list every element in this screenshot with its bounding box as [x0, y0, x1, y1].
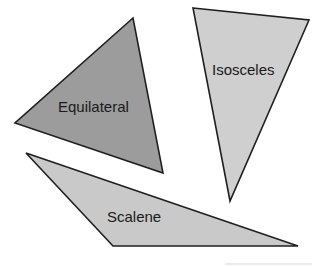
equilateral-triangle: Equilateral: [15, 18, 163, 173]
scalene-label: Scalene: [107, 208, 161, 225]
equilateral-shape: [15, 18, 163, 173]
triangle-types-diagram: Equilateral Isosceles Scalene: [0, 0, 318, 266]
isosceles-shape: [193, 8, 309, 201]
isosceles-label: Isosceles: [212, 61, 275, 78]
equilateral-label: Equilateral: [58, 98, 129, 115]
isosceles-triangle: Isosceles: [193, 8, 309, 201]
